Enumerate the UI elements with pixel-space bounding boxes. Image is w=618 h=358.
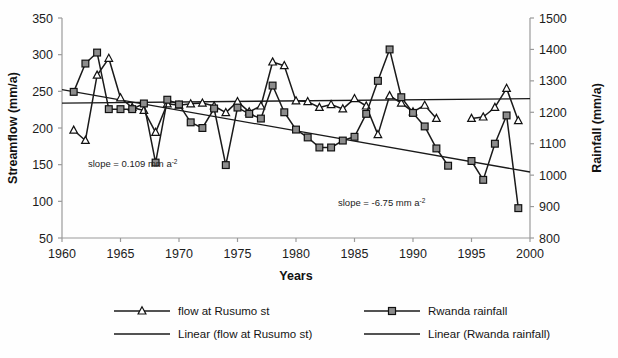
square-marker [328, 144, 335, 151]
square-marker [258, 115, 265, 122]
x-axis-tick-label: 1965 [107, 247, 135, 261]
chart-background [0, 0, 618, 358]
square-marker [480, 176, 487, 183]
right-axis-tick-label: 1200 [539, 106, 567, 120]
right-axis-tick-label: 1500 [539, 12, 567, 26]
square-marker [281, 109, 288, 116]
left-axis-tick-label: 250 [32, 85, 53, 99]
square-marker [94, 49, 101, 56]
legend-label: Linear (Rwanda rainfall) [428, 328, 550, 340]
streamflow-rainfall-chart: 5010015020025030035080090010001100120013… [0, 0, 618, 358]
left-axis-tick-label: 100 [32, 195, 53, 209]
annotation-flow-slope: slope = 0.109 mm a-2 [88, 158, 178, 170]
x-axis-tick-label: 1980 [282, 247, 310, 261]
left-axis-tick-label: 200 [32, 122, 53, 136]
square-marker [234, 104, 241, 111]
square-marker [386, 46, 393, 53]
square-marker [187, 119, 194, 126]
x-axis-tick-label: 1995 [458, 247, 486, 261]
annotation-exponent: -2 [172, 158, 178, 165]
square-marker [304, 134, 311, 141]
square-marker [421, 123, 428, 130]
legend-square-marker [389, 308, 396, 315]
x-axis-tick-label: 1990 [399, 247, 427, 261]
square-marker [211, 105, 218, 112]
x-axis-tick-label: 1970 [165, 247, 193, 261]
square-marker [246, 110, 253, 117]
y-axis-title: Streamflow (mm/a) [6, 72, 20, 184]
square-marker [129, 106, 136, 113]
x-axis-tick-label: 1960 [48, 247, 76, 261]
right-axis-tick-label: 1100 [539, 137, 566, 151]
legend-label: flow at Rusumo st [178, 305, 270, 317]
square-marker [351, 133, 358, 140]
right-axis-tick-label: 1000 [539, 169, 567, 183]
square-marker [269, 82, 276, 89]
x-axis-title: Years [279, 269, 312, 283]
square-marker [503, 112, 510, 119]
left-axis-tick-label: 150 [32, 158, 53, 172]
square-marker [141, 100, 148, 107]
square-marker [468, 158, 475, 165]
square-marker [398, 94, 405, 101]
x-axis-tick-label: 2000 [516, 247, 544, 261]
left-axis-tick-label: 50 [39, 232, 53, 246]
x-axis-tick-label: 1975 [224, 247, 252, 261]
square-marker [316, 144, 323, 151]
square-marker [164, 96, 171, 103]
square-marker [375, 77, 382, 84]
chart-figure: 5010015020025030035080090010001100120013… [0, 0, 618, 358]
square-marker [70, 88, 77, 95]
left-axis-tick-label: 350 [32, 12, 53, 26]
legend-label: Linear (flow at Rusumo st) [178, 328, 312, 340]
right-axis-tick-label: 1400 [539, 43, 567, 57]
right-axis-tick-label: 1300 [539, 74, 567, 88]
annotation-exponent: -2 [420, 197, 426, 204]
square-marker [293, 126, 300, 133]
y2-axis-title: Rainfall (mm/a) [590, 83, 604, 173]
square-marker [222, 162, 229, 169]
square-marker [105, 106, 112, 113]
x-axis-tick-label: 1985 [341, 247, 369, 261]
legend-label: Rwanda rainfall [428, 305, 507, 317]
square-marker [339, 137, 346, 144]
square-marker [199, 125, 206, 132]
square-marker [82, 60, 89, 67]
square-marker [433, 145, 440, 152]
square-marker [492, 140, 499, 147]
square-marker [363, 110, 370, 117]
annotation-rainfall-slope: slope = -6.75 mm a-2 [338, 197, 426, 209]
left-axis-tick-label: 300 [32, 48, 53, 62]
right-axis-tick-label: 900 [539, 200, 560, 214]
square-marker [117, 106, 124, 113]
square-marker [176, 101, 183, 108]
square-marker [515, 205, 522, 212]
square-marker [445, 162, 452, 169]
square-marker [410, 110, 417, 117]
right-axis-tick-label: 800 [539, 232, 560, 246]
